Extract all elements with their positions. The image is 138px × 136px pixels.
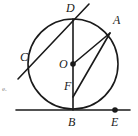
label-point-A: A xyxy=(113,14,120,26)
label-point-E: E xyxy=(111,116,118,128)
secant-through-D-and-C xyxy=(18,4,89,79)
radius-OA xyxy=(73,33,110,64)
point-dot-E xyxy=(112,107,118,113)
center-dot-O xyxy=(70,61,76,67)
label-point-B: B xyxy=(68,116,75,128)
label-point-F: F xyxy=(64,80,71,92)
geometry-figure: D A C O F B E e. xyxy=(0,0,138,136)
label-point-C: C xyxy=(20,51,28,63)
label-point-O: O xyxy=(59,58,68,70)
margin-mark: e. xyxy=(2,86,7,93)
chord-FA xyxy=(73,33,110,97)
label-point-D: D xyxy=(66,2,75,14)
